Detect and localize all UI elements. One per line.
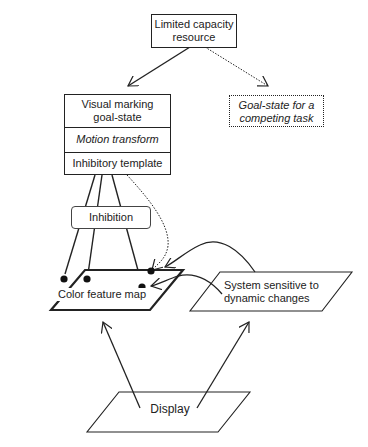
inhibition-box: Inhibition	[71, 206, 151, 229]
visual-marking-goal-state: Visual marking goal-state	[65, 95, 170, 128]
node-dot-2	[83, 275, 90, 282]
motion-transform-section: Motion transform	[65, 128, 170, 153]
competing-task-label-1: Goal-state for a	[230, 99, 323, 112]
visual-marking-stack: Visual marking goal-state Motion transfo…	[64, 94, 171, 175]
arrow-resource-to-visual-marking	[128, 47, 190, 86]
resource-label-2: resource	[152, 31, 236, 44]
inhibition-label: Inhibition	[72, 211, 150, 224]
competing-task-box: Goal-state for a competing task	[229, 95, 324, 127]
visual-marking-label-2: goal-state	[65, 111, 170, 124]
motion-transform-label: Motion transform	[65, 133, 170, 146]
color-feature-map-label: Color feature map	[52, 288, 152, 301]
resource-box: Limited capacity resource	[151, 14, 237, 48]
arrow-resource-to-competing-task	[205, 47, 268, 86]
dynamic-system-label-1: System sensitive to	[224, 279, 321, 292]
dynamic-system-label-2: dynamic changes	[224, 292, 312, 305]
visual-marking-label-1: Visual marking	[65, 98, 170, 111]
node-dot-1	[60, 275, 67, 282]
competing-task-label-2: competing task	[230, 112, 323, 125]
inhibitory-template-label: Inhibitory template	[65, 157, 170, 170]
inhibition-line-3	[112, 175, 142, 285]
resource-label-1: Limited capacity	[152, 18, 236, 31]
curve-arrow-upper	[165, 242, 255, 272]
inhibitory-template-section: Inhibitory template	[65, 153, 170, 175]
diagram-canvas	[0, 0, 368, 447]
display-label: Display	[145, 403, 195, 416]
node-dot-4	[147, 267, 154, 274]
